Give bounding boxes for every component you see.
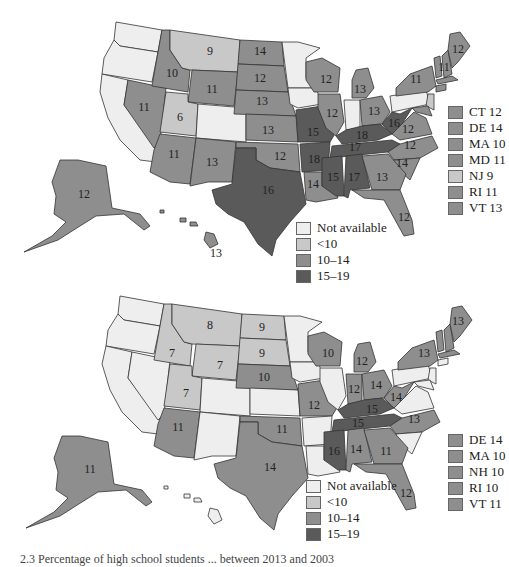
- label-wv: 16: [388, 116, 400, 130]
- label-ga: 13: [376, 170, 388, 184]
- small-state-item: VT 13: [448, 200, 506, 216]
- state-mt: [170, 30, 240, 72]
- small-state-label: DE 14: [469, 120, 503, 136]
- label-wi: 10: [322, 346, 334, 360]
- label-fl: 12: [398, 210, 410, 224]
- label-ne: 10: [258, 370, 270, 384]
- small-state-label: RI 10: [469, 480, 498, 496]
- small-state-item: CT 12: [448, 104, 506, 120]
- label-wy: 7: [217, 358, 223, 372]
- label-tx: 16: [262, 183, 274, 197]
- label-ks: 13: [262, 123, 274, 137]
- label-tn: 15: [352, 416, 364, 430]
- label-nd: 14: [254, 44, 266, 58]
- label-oh: 14: [370, 378, 382, 392]
- label-tx: 14: [264, 460, 276, 474]
- legend-item: <10: [296, 236, 387, 252]
- label-nm: 13: [206, 155, 218, 169]
- label-az: 11: [168, 147, 180, 161]
- small-state-label: NH 10: [469, 464, 504, 480]
- legend-label: 15–19: [327, 526, 360, 542]
- legend-item: 15–19: [306, 526, 397, 542]
- label-ok: 12: [274, 149, 286, 163]
- label-wy: 11: [206, 82, 218, 96]
- state-in: [344, 100, 360, 130]
- label-ny: 13: [418, 346, 430, 360]
- small-state-label: MD 11: [469, 152, 506, 168]
- state-ct: [438, 358, 448, 366]
- label-mo: 15: [307, 125, 319, 139]
- label-ms: 15: [327, 170, 339, 184]
- label-me: 12: [452, 42, 464, 56]
- state-ct: [436, 84, 446, 92]
- small-state-item: MA 10: [448, 448, 505, 464]
- state-wy: [192, 344, 240, 380]
- label-mi: 13: [354, 82, 366, 96]
- label-tn: 17: [349, 140, 361, 154]
- label-la: 14: [307, 177, 319, 191]
- bottom-small-state-legend: DE 14 MA 10 NH 10 RI 10 VT 11: [448, 432, 505, 512]
- label-va: 12: [402, 122, 414, 136]
- small-state-item: DE 14: [448, 432, 505, 448]
- map-bottom: 8 9 9 7 7 7 10 11 11 14 12 10 12 12 14 1…: [0, 282, 509, 544]
- label-ms: 16: [328, 444, 340, 458]
- figure-caption: 2.3 Percentage of high school students .…: [20, 552, 334, 567]
- top-legend: Not available <10 10–14 15–19: [296, 220, 387, 284]
- label-nc: 12: [404, 138, 416, 152]
- small-state-item: MA 10: [448, 136, 506, 152]
- map-top: 9 14 10 12 11 11 6 13 13 11 13 12 16 15 …: [0, 0, 509, 280]
- small-state-label: CT 12: [469, 104, 502, 120]
- small-state-item: NJ 9: [448, 168, 506, 184]
- top-small-state-legend: CT 12 DE 14 MA 10 MD 11 NJ 9 RI 11 VT 13: [448, 104, 506, 216]
- map-top-svg: 9 14 10 12 11 11 6 13 13 11 13 12 16 15 …: [0, 0, 509, 280]
- map-bottom-svg: 8 9 9 7 7 7 10 11 11 14 12 10 12 12 14 1…: [0, 282, 509, 544]
- legend-item: Not available: [306, 478, 397, 494]
- label-in: 12: [348, 382, 360, 396]
- label-ga: 11: [380, 444, 392, 458]
- bottom-legend: Not available <10 10–14 15–19: [306, 478, 397, 542]
- label-nd: 9: [259, 320, 265, 334]
- label-id: 10: [166, 66, 178, 80]
- small-state-label: MA 10: [469, 136, 505, 152]
- label-fl: 12: [400, 486, 412, 500]
- small-state-label: NJ 9: [469, 168, 493, 184]
- label-ok: 11: [276, 422, 288, 436]
- state-hi: [164, 486, 222, 524]
- label-nv: 11: [138, 100, 150, 114]
- state-hi: [160, 210, 218, 248]
- label-ne: 13: [256, 94, 268, 108]
- state-vt: [436, 330, 444, 352]
- label-nc: 13: [408, 412, 420, 426]
- label-mt: 9: [207, 44, 213, 58]
- small-state-item: MD 11: [448, 152, 506, 168]
- small-state-item: VT 11: [448, 496, 505, 512]
- label-mt: 8: [207, 318, 213, 332]
- legend-label: <10: [317, 236, 337, 252]
- small-state-item: NH 10: [448, 464, 505, 480]
- small-state-label: DE 14: [469, 432, 503, 448]
- label-mo: 12: [308, 398, 320, 412]
- label-ny: 11: [410, 72, 422, 86]
- label-oh: 13: [368, 104, 380, 118]
- label-ut: 7: [183, 386, 189, 400]
- legend-label: Not available: [327, 478, 397, 494]
- label-nh: 11: [438, 60, 450, 74]
- label-al: 14: [350, 442, 362, 456]
- label-hi: 13: [210, 246, 222, 260]
- label-ak: 12: [78, 187, 90, 201]
- state-ak: [26, 436, 152, 528]
- state-ks: [250, 388, 300, 416]
- state-ak: [24, 160, 150, 252]
- label-ak: 11: [84, 462, 96, 476]
- small-state-label: MA 10: [469, 448, 505, 464]
- label-ky: 15: [366, 402, 378, 416]
- legend-item: 10–14: [296, 252, 387, 268]
- legend-label: 10–14: [327, 510, 360, 526]
- label-me: 13: [452, 314, 464, 328]
- label-az: 11: [172, 420, 184, 434]
- legend-label: <10: [327, 494, 347, 510]
- small-state-label: VT 13: [469, 200, 502, 216]
- label-ar: 18: [308, 152, 320, 166]
- small-state-label: VT 11: [469, 496, 502, 512]
- small-state-item: RI 11: [448, 184, 506, 200]
